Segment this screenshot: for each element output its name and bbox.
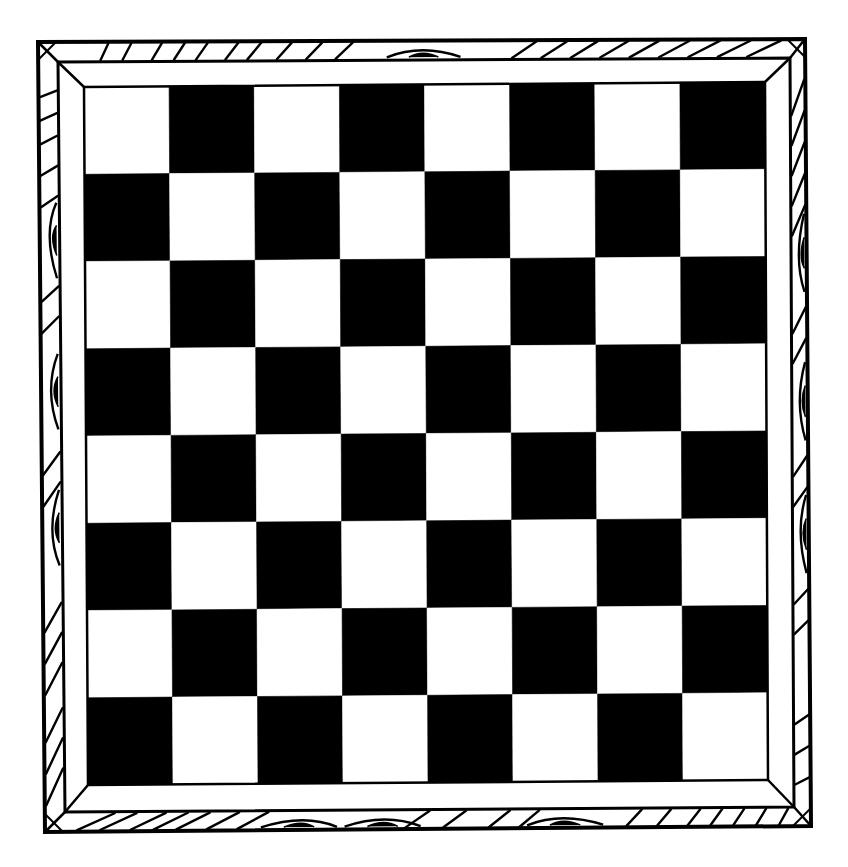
- square-c4-light: [256, 434, 342, 522]
- square-g4-light: [596, 432, 681, 520]
- square-d4-dark: [341, 434, 427, 522]
- square-h8-dark: [680, 82, 766, 170]
- square-b3-light: [172, 522, 258, 610]
- square-g2-light: [597, 606, 682, 694]
- square-g7-dark: [595, 170, 681, 258]
- square-e4-light: [426, 433, 511, 521]
- square-f7-light: [510, 171, 596, 259]
- square-b7-light: [170, 173, 256, 261]
- square-c3-dark: [257, 521, 343, 609]
- square-d8-dark: [339, 85, 425, 173]
- square-a3-dark: [87, 523, 173, 611]
- square-h5-light: [681, 344, 767, 432]
- square-e5-dark: [426, 346, 512, 434]
- square-d5-light: [341, 346, 427, 434]
- square-c7-dark: [255, 172, 341, 260]
- square-e7-dark: [425, 171, 511, 259]
- square-a4-light: [86, 435, 172, 523]
- square-g1-dark: [598, 693, 683, 781]
- square-a2-light: [87, 610, 173, 698]
- square-c8-light: [254, 85, 339, 173]
- square-g3-dark: [597, 519, 682, 607]
- square-a1-dark: [88, 697, 174, 785]
- square-a6-light: [85, 261, 171, 349]
- square-f5-light: [511, 345, 597, 433]
- square-f1-light: [513, 694, 598, 782]
- square-f8-dark: [510, 83, 596, 171]
- square-d1-light: [343, 695, 429, 783]
- square-a5-dark: [86, 348, 172, 436]
- square-h4-dark: [681, 431, 767, 519]
- square-d3-light: [342, 521, 428, 609]
- square-a8-light: [84, 86, 170, 174]
- square-c2-light: [257, 609, 342, 697]
- square-b8-dark: [169, 86, 255, 174]
- square-b6-dark: [170, 260, 256, 348]
- chessboard-illustration: [0, 0, 848, 867]
- square-h7-light: [680, 169, 766, 257]
- square-e8-light: [425, 84, 511, 172]
- chessboard-svg: [0, 0, 848, 867]
- board-squares: [84, 82, 768, 785]
- square-b5-light: [171, 348, 257, 436]
- square-f4-dark: [511, 432, 597, 520]
- square-d7-light: [340, 172, 426, 260]
- square-h3-light: [682, 518, 768, 606]
- square-h2-dark: [682, 606, 767, 694]
- square-d6-dark: [340, 259, 426, 347]
- square-e6-light: [425, 258, 511, 346]
- square-a7-dark: [85, 174, 171, 262]
- square-c6-light: [255, 260, 341, 348]
- square-b1-light: [173, 697, 259, 785]
- square-g8-light: [595, 83, 681, 171]
- square-f6-dark: [511, 258, 597, 346]
- square-b4-dark: [171, 435, 257, 523]
- square-c5-dark: [256, 347, 342, 435]
- square-c1-dark: [258, 696, 344, 784]
- square-f2-dark: [512, 607, 597, 695]
- square-b2-dark: [172, 609, 258, 697]
- square-h6-dark: [681, 257, 766, 345]
- square-h1-light: [683, 693, 768, 781]
- square-e1-dark: [428, 695, 513, 783]
- square-g5-dark: [596, 344, 681, 432]
- square-d2-dark: [342, 608, 428, 696]
- square-e3-dark: [427, 520, 513, 608]
- square-f3-light: [512, 520, 598, 608]
- square-g6-light: [596, 257, 681, 345]
- square-e2-light: [427, 607, 512, 695]
